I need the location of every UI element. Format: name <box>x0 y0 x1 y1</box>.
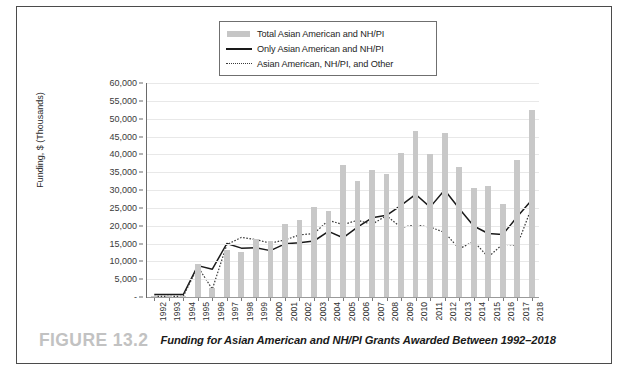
bar-1997 <box>224 250 230 297</box>
x-tick-mark <box>416 298 417 301</box>
figure-number: FIGURE 13.2 <box>39 330 148 351</box>
y-tick-label: - <box>134 292 137 302</box>
bar-2017 <box>514 160 520 297</box>
bar-2015 <box>485 186 491 297</box>
y-tick-label: 60,000 <box>109 78 137 88</box>
x-tick-mark <box>503 298 504 301</box>
y-tick-label: 50,000 <box>109 114 137 124</box>
x-tick-mark <box>169 298 170 301</box>
x-tick-mark <box>227 298 228 301</box>
y-tick-mark <box>139 172 143 173</box>
y-tick-label: 5,000 <box>114 274 137 284</box>
figure-caption-text: Funding for Asian American and NH/PI Gra… <box>160 334 555 346</box>
bar-2016 <box>500 204 506 297</box>
bar-1998 <box>238 252 244 297</box>
gridline <box>147 119 539 120</box>
gridline <box>147 137 539 138</box>
x-tick-mark <box>299 298 300 301</box>
y-tick-mark <box>139 279 143 280</box>
chart-legend: Total Asian American and NH/PI Only Asia… <box>219 21 437 76</box>
x-tick-mark <box>401 298 402 301</box>
x-tick-mark <box>154 298 155 301</box>
gridline <box>147 83 539 84</box>
bar-2003 <box>311 207 317 297</box>
solid-line-icon <box>226 43 252 54</box>
y-tick-label: 25,000 <box>109 203 137 213</box>
y-tick-label: 20,000 <box>109 221 137 231</box>
legend-item-other: Asian American, NH/PI, and Other <box>226 56 430 71</box>
x-tick-mark <box>372 298 373 301</box>
bar-2008 <box>384 174 390 297</box>
bar-1994 <box>180 296 186 297</box>
y-tick-label: 10,000 <box>109 256 137 266</box>
bar-1996 <box>209 288 215 297</box>
bar-2006 <box>355 181 361 297</box>
x-tick-mark <box>256 298 257 301</box>
y-tick-label: 30,000 <box>109 185 137 195</box>
x-tick-mark <box>285 298 286 301</box>
bar-1993 <box>166 296 172 297</box>
bar-2013 <box>456 167 462 297</box>
x-tick-mark <box>212 298 213 301</box>
bar-1995 <box>195 264 201 297</box>
legend-label-total: Total Asian American and NH/PI <box>257 29 384 39</box>
y-tick-mark <box>139 100 143 101</box>
bar-2009 <box>398 153 404 297</box>
y-tick-mark <box>139 136 143 137</box>
gridline <box>147 101 539 102</box>
bar-2014 <box>471 188 477 297</box>
x-tick-mark <box>270 298 271 301</box>
dotted-line-icon <box>226 58 252 69</box>
y-tick-mark <box>139 297 143 298</box>
figure-container: Total Asian American and NH/PI Only Asia… <box>16 6 612 364</box>
bar-2000 <box>268 241 274 297</box>
legend-label-only: Only Asian American and NH/PI <box>257 44 384 54</box>
x-tick-mark <box>314 298 315 301</box>
y-tick-label: 35,000 <box>109 167 137 177</box>
y-tick-label: 55,000 <box>109 96 137 106</box>
bar-2001 <box>282 224 288 297</box>
x-tick-mark <box>459 298 460 301</box>
bar-1999 <box>253 239 259 297</box>
bar-swatch-icon <box>226 28 252 39</box>
x-tick-mark <box>532 298 533 301</box>
y-tick-mark <box>139 207 143 208</box>
figure-caption: FIGURE 13.2 Funding for Asian American a… <box>17 317 613 363</box>
x-tick-mark <box>488 298 489 301</box>
chart-plot-area: Total Asian American and NH/PI Only Asia… <box>17 7 613 319</box>
x-tick-mark <box>343 298 344 301</box>
y-tick-label: 15,000 <box>109 239 137 249</box>
x-tick-mark <box>358 298 359 301</box>
y-tick-mark <box>139 261 143 262</box>
y-tick-mark <box>139 243 143 244</box>
bar-2012 <box>442 133 448 297</box>
x-tick-mark <box>183 298 184 301</box>
plot-canvas <box>147 83 539 297</box>
gridline <box>147 154 539 155</box>
x-tick-mark <box>430 298 431 301</box>
legend-item-only: Only Asian American and NH/PI <box>226 41 430 56</box>
x-tick-mark <box>445 298 446 301</box>
y-tick-mark <box>139 190 143 191</box>
bar-2007 <box>369 170 375 297</box>
bar-2004 <box>326 211 332 297</box>
bar-2005 <box>340 165 346 297</box>
y-tick-mark <box>139 154 143 155</box>
bar-2018 <box>529 110 535 297</box>
y-tick-mark <box>139 225 143 226</box>
bar-2011 <box>427 154 433 297</box>
x-tick-mark <box>517 298 518 301</box>
bar-2002 <box>297 220 303 297</box>
legend-label-other: Asian American, NH/PI, and Other <box>257 59 393 69</box>
x-tick-mark <box>474 298 475 301</box>
y-tick-mark <box>139 118 143 119</box>
y-axis-ticks: -5,00010,00015,00020,00025,00030,00035,0… <box>95 77 143 297</box>
bar-1992 <box>151 296 157 297</box>
y-axis-title: Funding, $ (Thousands) <box>35 65 45 215</box>
legend-item-total: Total Asian American and NH/PI <box>226 26 430 41</box>
x-tick-mark <box>241 298 242 301</box>
y-tick-label: 45,000 <box>109 132 137 142</box>
y-tick-mark <box>139 83 143 84</box>
bar-2010 <box>413 131 419 297</box>
x-tick-mark <box>387 298 388 301</box>
